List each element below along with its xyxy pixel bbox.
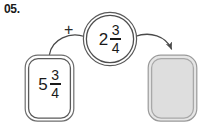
answer-blank-box[interactable] bbox=[148, 55, 197, 121]
right-arrow-connector bbox=[135, 34, 172, 49]
left-addend-box[interactable] bbox=[25, 55, 74, 121]
plus-icon: + bbox=[64, 22, 73, 38]
second-addend-circle[interactable] bbox=[83, 12, 136, 65]
worksheet-problem: 05. + 2 3 4 bbox=[0, 0, 202, 124]
diagram-canvas bbox=[0, 0, 202, 124]
